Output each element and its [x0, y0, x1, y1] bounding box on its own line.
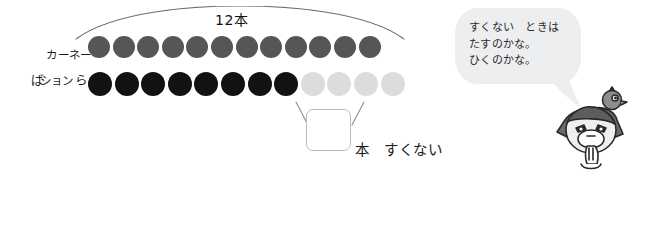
flower-dot-rose — [115, 72, 139, 96]
flower-dot-carnation — [88, 36, 110, 58]
flower-dot-rose — [168, 72, 192, 96]
flower-dot-rose — [274, 72, 298, 96]
flower-dot-rose — [248, 72, 272, 96]
dot-row-rose — [88, 72, 405, 96]
flower-dot-rose — [221, 72, 245, 96]
flower-dot-carnation — [285, 36, 307, 58]
flower-dot-carnation — [359, 36, 381, 58]
flower-dot-rose — [141, 72, 165, 96]
flower-dot-carnation — [334, 36, 356, 58]
arc-total-label: 12本 — [212, 9, 251, 29]
flower-dot-carnation — [162, 36, 184, 58]
speech-bubble-text: すくない ときは たすのかな。 ひくのかな。 — [469, 20, 579, 70]
flower-dot-carnation — [309, 36, 331, 58]
row-label-carnation-line1: カーネー — [46, 48, 91, 62]
flower-dot-carnation — [236, 36, 258, 58]
flower-dot-rose-missing — [354, 72, 378, 96]
flower-dot-carnation — [211, 36, 233, 58]
flower-dot-carnation — [137, 36, 159, 58]
difference-unit-label: 本 すくない — [355, 138, 442, 159]
dot-row-carnation — [88, 36, 381, 58]
flower-dot-carnation — [260, 36, 282, 58]
flower-dot-rose-missing — [327, 72, 351, 96]
worksheet-canvas: 12本 カーネー ション ば ら 本 すくない すくない ときは たすのかな。 … — [0, 0, 660, 233]
flower-dot-carnation — [186, 36, 208, 58]
flower-dot-rose — [88, 72, 112, 96]
difference-answer-box[interactable] — [306, 109, 351, 151]
flower-dot-rose — [194, 72, 218, 96]
flower-dot-carnation — [113, 36, 135, 58]
flower-dot-rose-missing — [381, 72, 405, 96]
flower-dot-rose-missing — [301, 72, 325, 96]
equation-row: しき ( ) = こたえ ( ) 本 — [0, 160, 660, 233]
row-label-rose: ば ら — [31, 74, 93, 87]
